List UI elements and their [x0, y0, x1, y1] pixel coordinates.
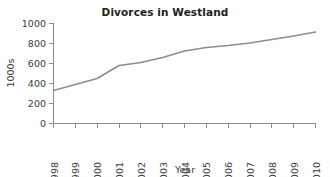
- x-tick-label-2008: 2008: [267, 162, 278, 177]
- x-tick-label-1999: 1999: [70, 162, 81, 177]
- x-axis-ticks: [54, 124, 316, 129]
- chart-container: Divorces in Westland 1000 800 600 400 20…: [0, 0, 330, 177]
- x-tick-label-2002: 2002: [136, 162, 147, 177]
- x-tick-label-2003: 2003: [158, 162, 169, 177]
- y-axis-title: 1000s: [5, 58, 16, 87]
- x-tick-label-2005: 2005: [201, 162, 212, 177]
- x-tick-label-2001: 2001: [114, 162, 125, 177]
- x-tick-label-1998: 1998: [49, 162, 60, 177]
- x-tick-label-2000: 2000: [92, 162, 103, 177]
- y-tick-label-1000: 1000: [22, 18, 46, 29]
- x-tick-label-2007: 2007: [245, 162, 256, 177]
- y-tick-label-800: 800: [28, 38, 46, 49]
- y-axis-labels: 1000 800 600 400 200 0: [22, 18, 46, 129]
- y-tick-label-200: 200: [28, 98, 46, 109]
- x-tick-label-2009: 2009: [289, 162, 300, 177]
- y-tick-label-400: 400: [28, 78, 46, 89]
- data-series-divorces: [54, 32, 316, 91]
- line-chart-plot: 1000 800 600 400 200 0 1000s 19: [0, 0, 330, 177]
- y-tick-label-0: 0: [40, 118, 46, 129]
- x-tick-label-2006: 2006: [223, 162, 234, 177]
- y-axis-ticks: [49, 24, 54, 124]
- x-axis-title: Year: [174, 164, 195, 175]
- x-tick-label-2010: 2010: [311, 162, 322, 177]
- y-tick-label-600: 600: [28, 58, 46, 69]
